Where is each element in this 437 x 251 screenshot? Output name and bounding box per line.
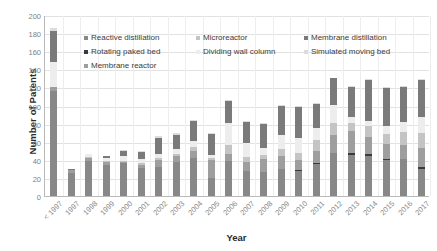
bar-segment[interactable] — [400, 159, 407, 196]
bar-segment[interactable] — [260, 148, 267, 155]
bar-segment[interactable] — [295, 171, 302, 196]
bar-segment[interactable] — [418, 169, 425, 196]
bar-stack[interactable] — [138, 151, 145, 196]
bar-segment[interactable] — [400, 87, 407, 122]
bar-segment[interactable] — [50, 31, 57, 62]
bar-segment[interactable] — [418, 148, 425, 167]
bar-segment[interactable] — [313, 140, 320, 151]
bar-segment[interactable] — [278, 149, 285, 156]
bar-segment[interactable] — [383, 88, 390, 126]
bar-stack[interactable] — [225, 100, 232, 196]
bar-segment[interactable] — [50, 91, 57, 196]
bar-stack[interactable] — [68, 169, 75, 196]
bar-segment[interactable] — [225, 123, 232, 146]
bar-segment[interactable] — [190, 158, 197, 196]
bar-segment[interactable] — [365, 126, 372, 137]
bar-stack[interactable] — [208, 133, 215, 196]
bar-segment[interactable] — [155, 138, 162, 153]
bar-segment[interactable] — [313, 104, 320, 128]
bar-segment[interactable] — [330, 135, 337, 152]
bar-segment[interactable] — [278, 106, 285, 135]
bar-segment[interactable] — [260, 124, 267, 148]
bar-stack[interactable] — [173, 133, 180, 196]
bar-segment[interactable] — [243, 171, 250, 196]
bar-segment[interactable] — [295, 153, 302, 160]
bar-stack[interactable] — [103, 156, 110, 196]
bar-segment[interactable] — [295, 160, 302, 170]
bar-segment[interactable] — [120, 163, 127, 196]
bar-stack[interactable] — [190, 120, 197, 196]
legend-item[interactable]: Dividing wall column — [196, 45, 304, 59]
bar-segment[interactable] — [365, 137, 372, 154]
bar-segment[interactable] — [278, 169, 285, 196]
bar-segment[interactable] — [208, 160, 215, 178]
bar-stack[interactable] — [330, 78, 337, 197]
bar-segment[interactable] — [68, 173, 75, 196]
bar-segment[interactable] — [330, 123, 337, 136]
bar-stack[interactable] — [383, 87, 390, 196]
bar-segment[interactable] — [173, 162, 180, 196]
legend-item[interactable]: Membrane distillation — [304, 31, 414, 45]
bar-segment[interactable] — [260, 172, 267, 196]
bar-segment[interactable] — [208, 178, 215, 196]
bar-segment[interactable] — [243, 162, 250, 171]
bar-segment[interactable] — [365, 80, 372, 121]
bar-segment[interactable] — [155, 167, 162, 196]
bar-segment[interactable] — [243, 122, 250, 143]
bar-segment[interactable] — [400, 132, 407, 146]
bar-stack[interactable] — [313, 103, 320, 196]
bar-stack[interactable] — [243, 121, 250, 196]
bar-segment[interactable] — [190, 121, 197, 141]
legend-item[interactable]: Rotating paked bed — [84, 45, 196, 59]
bar-segment[interactable] — [208, 134, 215, 156]
bar-segment[interactable] — [348, 131, 355, 154]
bar-segment[interactable] — [173, 135, 180, 149]
bar-segment[interactable] — [225, 101, 232, 123]
bar-stack[interactable] — [278, 105, 285, 196]
bar-segment[interactable] — [348, 87, 355, 118]
bar-segment[interactable] — [138, 152, 145, 159]
legend-item[interactable]: Reactive distillation — [84, 31, 196, 45]
bar-segment[interactable] — [418, 80, 425, 117]
bar-segment[interactable] — [383, 144, 390, 159]
bar-stack[interactable] — [50, 28, 57, 196]
legend-item[interactable]: Membrane reactor — [84, 59, 196, 73]
bar-stack[interactable] — [85, 154, 92, 196]
bar-segment[interactable] — [330, 105, 337, 123]
bar-segment[interactable] — [313, 128, 320, 140]
bar-stack[interactable] — [295, 106, 302, 196]
legend-item[interactable]: Microreactor — [196, 31, 304, 45]
bar-stack[interactable] — [120, 150, 127, 196]
bar-segment[interactable] — [313, 151, 320, 164]
bar-segment[interactable] — [138, 168, 145, 196]
bar-segment[interactable] — [330, 78, 337, 104]
bar-segment[interactable] — [330, 153, 337, 196]
bar-segment[interactable] — [50, 62, 57, 87]
bar-segment[interactable] — [103, 165, 110, 196]
bar-stack[interactable] — [155, 136, 162, 196]
bar-segment[interactable] — [295, 107, 302, 138]
bar-segment[interactable] — [278, 156, 285, 169]
bar-segment[interactable] — [260, 159, 267, 173]
bar-segment[interactable] — [85, 161, 92, 196]
bar-segment[interactable] — [190, 151, 197, 158]
bar-segment[interactable] — [225, 161, 232, 196]
bar-segment[interactable] — [383, 126, 390, 133]
bar-stack[interactable] — [400, 86, 407, 196]
bar-segment[interactable] — [348, 155, 355, 196]
bar-segment[interactable] — [225, 145, 232, 154]
bar-stack[interactable] — [348, 86, 355, 196]
bar-segment[interactable] — [400, 122, 407, 132]
bar-segment[interactable] — [383, 134, 390, 144]
bar-segment[interactable] — [155, 160, 162, 167]
bar-segment[interactable] — [383, 160, 390, 196]
bar-segment[interactable] — [400, 145, 407, 159]
bar-segment[interactable] — [243, 143, 250, 157]
bar-segment[interactable] — [365, 156, 372, 196]
bar-segment[interactable] — [418, 117, 425, 132]
legend-item[interactable]: Simulated moving bed — [304, 45, 414, 59]
bar-segment[interactable] — [313, 164, 320, 196]
bar-segment[interactable] — [295, 138, 302, 152]
bar-stack[interactable] — [418, 79, 425, 196]
bar-stack[interactable] — [365, 79, 372, 196]
